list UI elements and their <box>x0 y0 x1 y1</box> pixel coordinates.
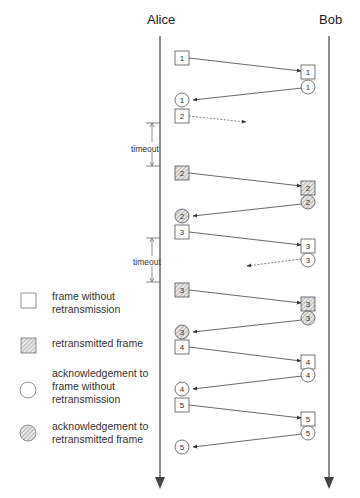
svg-text:2: 2 <box>180 169 185 178</box>
svg-text:4: 4 <box>180 343 185 352</box>
bob-frame-3: 3 <box>301 239 315 253</box>
msg-ack-5 <box>193 434 302 447</box>
msg-frame-1 <box>189 58 301 71</box>
bob-lifeline-arrow-icon <box>324 477 334 489</box>
svg-text:4: 4 <box>306 358 311 367</box>
bob-ack-5: 5 <box>301 426 315 440</box>
bob-frame-1: 1 <box>301 65 315 79</box>
svg-text:1: 1 <box>306 68 311 77</box>
legend-square-icon <box>21 293 36 308</box>
msg-ack-3-retx <box>193 320 302 332</box>
svg-text:3: 3 <box>306 242 311 251</box>
svg-text:1: 1 <box>180 96 185 105</box>
bob-ack-3-retx: 3 <box>301 311 315 325</box>
svg-text:1: 1 <box>306 83 311 92</box>
alice-frame-2: 2 <box>175 109 189 123</box>
bob-ack-2-retx: 2 <box>301 195 315 209</box>
svg-text:2: 2 <box>306 184 311 193</box>
msg-frame-2-retx <box>189 173 301 186</box>
bob-frame-4: 4 <box>301 355 315 369</box>
svg-text:1: 1 <box>180 54 185 63</box>
bob-ack-4: 4 <box>301 368 315 382</box>
alice-ack-3-retx: 3 <box>175 325 189 339</box>
svg-text:3: 3 <box>180 228 185 237</box>
svg-text:3: 3 <box>180 328 185 337</box>
msg-frame-2-lost <box>189 116 246 122</box>
alice-frame-3-retx: 3 <box>175 283 189 297</box>
legend-circle-icon <box>20 382 36 398</box>
msg-frame-3 <box>189 232 301 245</box>
alice-frame-5: 5 <box>175 398 189 412</box>
alice-ack-4: 4 <box>175 382 189 396</box>
svg-text:5: 5 <box>180 443 185 452</box>
bob-frame-5: 5 <box>301 412 315 426</box>
bob-ack-3: 3 <box>301 253 315 267</box>
svg-text:5: 5 <box>306 415 311 424</box>
svg-text:5: 5 <box>306 429 311 438</box>
timeout-bracket-2 <box>146 238 160 282</box>
alice-frame-2-retx: 2 <box>175 166 189 180</box>
msg-frame-5 <box>189 405 301 418</box>
legend-hatched-square-icon <box>21 338 36 353</box>
svg-text:3: 3 <box>180 286 185 295</box>
svg-text:4: 4 <box>306 371 311 380</box>
svg-text:2: 2 <box>306 198 311 207</box>
alice-ack-1: 1 <box>175 93 189 107</box>
alice-ack-2-retx: 2 <box>175 209 189 223</box>
svg-text:3: 3 <box>306 300 311 309</box>
legend-hatched-circle-icon <box>20 425 36 441</box>
svg-text:3: 3 <box>306 314 311 323</box>
msg-ack-4 <box>193 376 302 389</box>
bob-frame-3-retx: 3 <box>301 297 315 311</box>
msg-ack-3-lost <box>247 259 301 266</box>
timeout-bracket-1 <box>146 123 160 166</box>
msg-ack-2-retx <box>193 204 302 216</box>
bob-ack-1: 1 <box>301 80 315 94</box>
svg-text:2: 2 <box>180 212 185 221</box>
alice-frame-3: 3 <box>175 225 189 239</box>
sequence-diagram: 1 1 2 2 2 3 3 3 4 4 5 5 1 1 2 2 3 3 3 3 … <box>0 0 360 498</box>
msg-frame-3-retx <box>189 290 301 303</box>
svg-text:4: 4 <box>180 385 185 394</box>
alice-frame-4: 4 <box>175 340 189 354</box>
svg-text:5: 5 <box>180 401 185 410</box>
bob-frame-2-retx: 2 <box>301 181 315 195</box>
svg-text:3: 3 <box>306 256 311 265</box>
alice-ack-5: 5 <box>175 440 189 454</box>
msg-frame-4 <box>189 347 301 361</box>
svg-text:2: 2 <box>180 112 185 121</box>
msg-ack-1 <box>193 88 302 100</box>
alice-lifeline-arrow-icon <box>155 477 165 489</box>
alice-frame-1: 1 <box>175 51 189 65</box>
